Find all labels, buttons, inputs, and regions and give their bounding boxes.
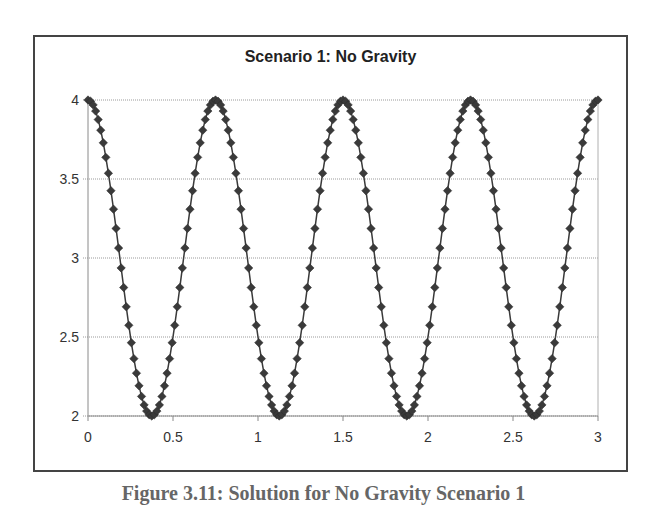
diamond-marker [515,369,523,377]
x-tick-label: 0 [84,429,92,445]
diamond-marker [239,224,247,232]
diamond-marker [173,303,181,311]
diamond-marker [505,303,513,311]
diamond-marker [494,224,502,232]
diamond-marker [556,303,564,311]
diamond-marker [104,169,112,177]
diamond-marker [135,382,143,390]
diamond-marker [487,169,495,177]
diamond-marker [227,139,235,147]
diamond-marker [316,186,324,194]
diamond-marker [94,115,102,123]
diamond-marker [176,283,184,291]
diamond-marker [130,354,138,362]
diamond-marker [441,205,449,213]
diamond-marker [510,338,518,346]
diamond-marker [387,369,395,377]
diamond-marker [125,321,133,329]
x-tick-label: 3 [594,429,602,445]
diamond-marker [237,205,245,213]
diamond-marker [520,392,528,400]
diamond-marker [318,169,326,177]
diamond-marker [265,392,273,400]
diamond-marker [127,338,135,346]
diamond-marker [97,126,105,134]
diamond-marker [438,224,446,232]
diamond-marker [545,369,553,377]
diamond-marker [436,244,444,252]
diamond-marker [295,338,303,346]
diamond-marker [543,382,551,390]
x-tick-label: 2 [424,429,432,445]
diamond-marker [329,115,337,123]
diamond-marker [114,244,122,252]
diamond-marker [349,115,357,123]
diamond-marker [201,115,209,123]
diamond-marker [290,369,298,377]
diamond-marker [359,169,367,177]
x-tick-label: 0.5 [163,429,183,445]
diamond-marker [448,153,456,161]
diamond-marker [250,303,258,311]
diamond-marker [120,283,128,291]
diamond-marker [357,153,365,161]
diamond-marker [165,354,173,362]
diamond-marker [499,264,507,272]
diamond-marker [196,139,204,147]
diamond-marker [324,139,332,147]
diamond-marker [369,244,377,252]
diamond-marker [497,244,505,252]
diamond-marker [418,369,426,377]
x-tick-label: 2.5 [503,429,523,445]
diamond-marker [222,115,230,123]
diamond-marker [301,303,309,311]
y-tick-label: 2.5 [60,329,80,345]
diamond-marker [255,338,263,346]
diamond-marker [426,321,434,329]
diamond-marker [451,139,459,147]
diamond-marker [390,382,398,390]
diamond-marker [502,283,510,291]
diamond-marker [186,205,194,213]
diamond-marker [446,169,454,177]
diamond-marker [443,186,451,194]
diamond-marker [584,115,592,123]
figure-caption: Figure 3.11: Solution for No Gravity Sce… [0,482,647,505]
diamond-marker [321,153,329,161]
diamond-marker [178,264,186,272]
diamond-marker [298,321,306,329]
diamond-marker [181,244,189,252]
diamond-marker [168,338,176,346]
diamond-marker [415,382,423,390]
diamond-marker [257,354,265,362]
y-tick-label: 4 [71,92,79,108]
diamond-marker [311,224,319,232]
diamond-marker [122,303,130,311]
diamond-marker [308,244,316,252]
diamond-marker [571,186,579,194]
diamond-marker [224,126,232,134]
diamond-marker [420,354,428,362]
diamond-marker [492,205,500,213]
diamond-marker [313,205,321,213]
diamond-marker [303,283,311,291]
diamond-marker [247,283,255,291]
diamond-marker [160,382,168,390]
y-tick-label: 2 [71,408,79,424]
diamond-marker [433,264,441,272]
diamond-marker [112,224,120,232]
diamond-marker [413,392,421,400]
diamond-marker [380,321,388,329]
diamond-marker [252,321,260,329]
diamond-marker [375,283,383,291]
diamond-marker [188,186,196,194]
y-tick-label: 3.5 [60,171,80,187]
gridlines [83,100,598,416]
diamond-marker [576,153,584,161]
diamond-marker [244,264,252,272]
diamond-marker [293,354,301,362]
diamond-marker [193,153,201,161]
diamond-marker [482,139,490,147]
diamond-marker [561,264,569,272]
